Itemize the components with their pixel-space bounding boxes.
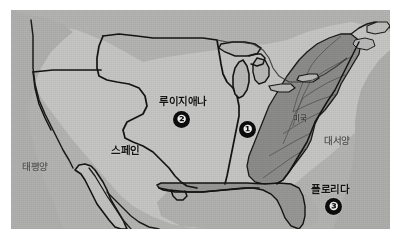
historical-map-figure: 태평양 스페인 루이지애나 미국 대서양 플로리다 ❶ ❷ ❸	[0, 0, 401, 242]
marker-1-united-states[interactable]: ❶	[239, 121, 256, 138]
marker-2-louisiana[interactable]: ❷	[173, 111, 190, 128]
lake-erie	[269, 84, 295, 92]
label-louisiana: 루이지애나	[159, 96, 207, 107]
marker-3-florida[interactable]: ❸	[325, 198, 342, 215]
label-united-states: 미국	[293, 115, 306, 123]
label-spain: 스페인	[111, 145, 140, 156]
label-pacific-ocean: 태평양	[22, 162, 48, 172]
map-plate: 태평양 스페인 루이지애나 미국 대서양 플로리다 ❶ ❷ ❸	[11, 10, 390, 229]
label-florida: 플로리다	[311, 184, 349, 195]
map-geography-svg	[11, 10, 390, 229]
lake-huron	[253, 58, 269, 84]
label-atlantic-ocean: 대서양	[324, 136, 350, 146]
